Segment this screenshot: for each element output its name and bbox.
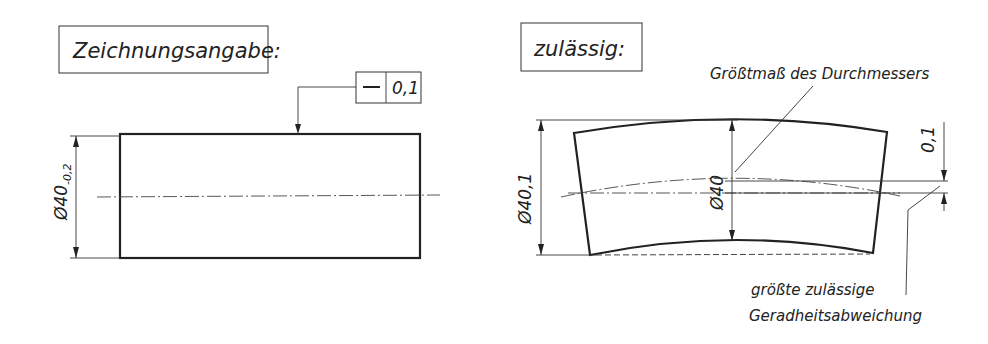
diameter-tolerance: -0,2 [61,164,74,185]
annotation-leader-bottom [906,186,940,295]
dim-arrow-down-icon [941,170,947,181]
svg-text:Ø40,1: Ø40,1 [515,173,535,225]
title-text: Zeichnungsangabe: [72,39,281,63]
hidden-envelope-line [596,254,870,255]
title-box-drawing-spec: Zeichnungsangabe: [59,26,281,73]
diameter-value: 40 [707,175,727,197]
dim-arrow-top-icon [538,120,544,131]
tolerance-frame: 0,1 [295,72,421,134]
annotation-leader-top [735,86,813,172]
technical-drawing: Zeichnungsangabe: 0,1 Ø40-0,2 [0,0,988,344]
deviation-label: 0,1 [918,126,938,153]
left-panel: Zeichnungsangabe: 0,1 Ø40-0,2 [51,26,440,258]
cylinder-outline [120,134,420,258]
diameter-label-outer: Ø40,1 [515,173,535,225]
deviation-dimension: 0,1 [918,122,947,211]
dim-arrow-top-icon [729,120,735,131]
title-text: zulässig: [533,37,625,61]
annotation-max-deviation-line2: Geradheitsabweichung [749,307,922,325]
dim-arrow-bottom-icon [538,244,544,255]
diameter-dimension-outer: Ø40,1 [515,120,738,255]
diameter-symbol: Ø [515,210,535,225]
diameter-dimension-inner: Ø40 [707,120,735,241]
diameter-symbol: Ø [707,196,727,211]
center-line [97,195,440,197]
svg-text:0,1: 0,1 [918,126,938,153]
diameter-nominal: 40 [51,185,71,207]
dim-arrow-top-icon [73,136,79,147]
dim-arrow-bottom-icon [73,247,79,258]
annotation-max-deviation-line1: größte zulässige [751,281,874,299]
diameter-label-left: Ø40-0,2 [51,164,74,222]
tolerance-value: 0,1 [392,78,419,98]
svg-text:Ø40: Ø40 [707,175,727,211]
annotation-max-diameter: Größtmaß des Durchmessers [710,65,929,83]
diameter-label-inner: Ø40 [707,175,727,211]
right-panel: zulässig: Größtmaß des Durchmessers Ø40,… [515,23,948,325]
dim-arrow-up-icon [941,193,947,204]
leader-arrow-icon [295,124,301,134]
svg-text:Ø40-0,2: Ø40-0,2 [51,164,74,222]
diameter-value: 40,1 [515,173,535,211]
title-box-permitted: zulässig: [521,23,642,71]
diameter-symbol: Ø [51,206,71,221]
tolerance-leader-line [298,87,356,126]
